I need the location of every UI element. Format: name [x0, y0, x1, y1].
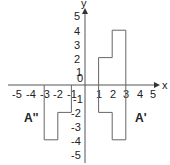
y-tick: 4 [74, 25, 80, 37]
y-tick: -3 [71, 121, 81, 133]
y-tick: -1 [73, 93, 83, 105]
y-tick: 1 [76, 66, 82, 78]
y-tick: 3 [74, 39, 80, 51]
x-tick: -2 [53, 88, 63, 100]
shape-a [99, 30, 126, 85]
y-tick: -2 [71, 107, 81, 119]
y-tick: -5 [71, 149, 81, 161]
x-tick: -5 [12, 88, 22, 100]
label-a-prime: A' [135, 111, 147, 125]
x-tick: -4 [26, 88, 36, 100]
y-tick: 5 [74, 10, 80, 22]
y-axis-label: y [81, 0, 87, 9]
y-tick: 2 [74, 53, 80, 65]
coordinate-plane: x y 0 -5 -4 -3 -2 -1 1 2 3 4 5 5 4 3 2 1… [0, 0, 170, 165]
x-tick: 4 [137, 88, 143, 100]
x-axis-label: x [162, 79, 168, 91]
x-tick: -3 [40, 88, 50, 100]
x-tick: 2 [110, 88, 116, 100]
y-tick: -4 [71, 135, 81, 147]
label-a-double-prime: A'' [24, 111, 39, 125]
x-tick: 5 [150, 88, 156, 100]
x-tick-labels: -5 -4 -3 -2 -1 1 2 3 4 5 [12, 88, 156, 100]
